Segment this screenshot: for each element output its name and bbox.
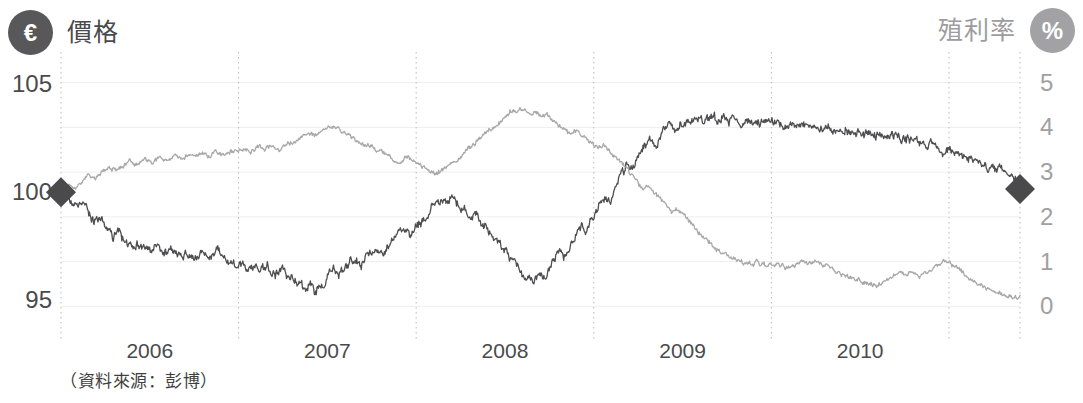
x-axis-ticks: 20062007200820092010 bbox=[0, 0, 1083, 403]
x-axis-tick-2008: 2008 bbox=[482, 340, 529, 361]
x-axis-tick-2009: 2009 bbox=[659, 340, 706, 361]
chart-page: € 價格 殖利率 % 95100105 012345 2006200720082… bbox=[0, 0, 1083, 403]
x-axis-tick-2010: 2010 bbox=[837, 340, 884, 361]
x-axis-tick-2006: 2006 bbox=[126, 340, 173, 361]
source-note: （資料來源：彭博） bbox=[60, 367, 218, 392]
x-axis-tick-2007: 2007 bbox=[304, 340, 351, 361]
